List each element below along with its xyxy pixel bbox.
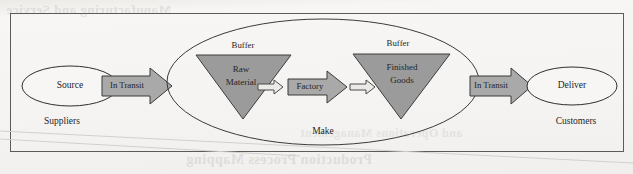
node-deliver[interactable]: Deliver — [527, 67, 617, 105]
buffer-finished-goods-header: Buffer — [387, 38, 410, 48]
deliver-label: Deliver — [558, 80, 587, 90]
buffer-finished-goods[interactable]: Buffer Finished Goods — [353, 38, 450, 119]
arrow-in-transit-right[interactable]: In Transit — [470, 68, 532, 104]
factory-label: Factory — [297, 81, 324, 91]
buffer-raw-material-header: Buffer — [232, 40, 255, 50]
flow-arrow-2-icon — [350, 80, 375, 94]
source-caption: Suppliers — [44, 116, 80, 126]
node-factory[interactable]: Factory — [288, 71, 347, 103]
source-label: Source — [57, 80, 83, 90]
finished-goods-line2: Goods — [390, 75, 414, 85]
raw-material-line2: Material — [226, 77, 257, 87]
arrow-in-transit-left[interactable]: In Transit — [102, 68, 172, 104]
in-transit-right-label: In Transit — [474, 80, 509, 90]
raw-material-line1: Raw — [233, 64, 250, 74]
figure-page: Manufacturing and Service Production Pro… — [0, 0, 633, 174]
make-label: Make — [312, 126, 334, 136]
finished-goods-line1: Finished — [386, 62, 418, 72]
in-transit-left-label: In Transit — [110, 80, 145, 90]
supply-chain-diagram: Source Suppliers In Transit Make Buffer … — [0, 0, 633, 174]
deliver-caption: Customers — [556, 116, 597, 126]
buffer-raw-material[interactable]: Buffer Raw Material — [196, 40, 291, 119]
scan-artifact-line-2 — [0, 139, 300, 156]
